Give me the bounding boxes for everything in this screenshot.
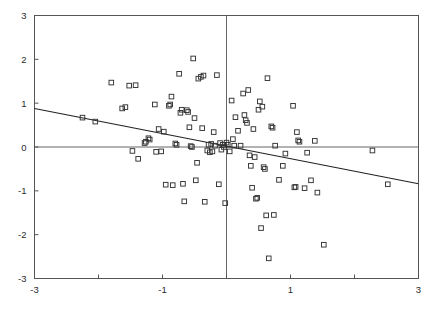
- data-point-marker: [133, 83, 138, 88]
- data-point-marker: [227, 149, 232, 154]
- x-tick-label: -3: [30, 284, 38, 295]
- data-point-marker: [265, 76, 270, 81]
- data-point-marker: [266, 256, 271, 261]
- y-tick-label: -2: [18, 229, 26, 240]
- data-point-marker: [385, 182, 390, 187]
- data-point-marker: [231, 137, 236, 142]
- data-point-marker: [296, 138, 301, 143]
- data-point-marker: [233, 115, 238, 120]
- x-tick-label: 1: [288, 284, 293, 295]
- data-point-marker: [246, 88, 251, 93]
- data-point-marker: [130, 149, 135, 154]
- data-point-marker: [277, 178, 282, 183]
- data-point-marker: [123, 105, 128, 110]
- data-point-marker: [217, 182, 222, 187]
- plot-canvas: -3-113 3210-1-2-3: [0, 0, 435, 310]
- x-tick-label: 3: [416, 284, 421, 295]
- data-point-marker: [252, 155, 257, 160]
- data-point-marker: [215, 73, 220, 78]
- data-point-marker: [283, 151, 288, 156]
- data-point-marker: [236, 128, 241, 133]
- scatter-plot-figure: -3-113 3210-1-2-3: [0, 0, 435, 310]
- data-point-marker: [305, 150, 310, 155]
- data-point-marker: [263, 167, 268, 172]
- data-point-marker: [281, 164, 286, 169]
- data-point-marker: [136, 157, 141, 162]
- data-point-marker: [315, 190, 320, 195]
- y-tick-label: -3: [18, 273, 26, 284]
- x-tick-label: -1: [158, 284, 166, 295]
- y-tick-label: 3: [21, 10, 26, 21]
- data-point-marker: [309, 178, 314, 183]
- data-point-marker: [295, 130, 300, 135]
- data-point-marker: [264, 213, 269, 218]
- data-point-marker: [153, 102, 158, 107]
- data-point-marker: [229, 98, 234, 103]
- data-point-marker: [109, 80, 114, 85]
- data-point-marker: [167, 104, 172, 109]
- data-point-marker: [170, 183, 175, 188]
- y-tick-label: 2: [21, 54, 26, 65]
- data-point-marker: [163, 182, 168, 187]
- data-point-marker: [313, 139, 318, 144]
- data-point-marker: [142, 141, 147, 146]
- data-point-marker: [182, 199, 187, 204]
- data-point-marker: [120, 106, 125, 111]
- data-point-marker: [195, 160, 200, 165]
- x-axis-tick-labels: -3-113: [30, 284, 421, 295]
- data-point-marker: [169, 94, 174, 99]
- data-point-marker: [191, 56, 196, 61]
- data-point-marker: [156, 127, 161, 132]
- data-point-marker: [321, 242, 326, 247]
- data-point-marker: [202, 199, 207, 204]
- data-point-marker: [242, 113, 247, 118]
- y-tick-label: 1: [21, 98, 26, 109]
- data-point-marker: [185, 108, 190, 113]
- y-axis-tick-labels: 3210-1-2-3: [18, 10, 26, 284]
- data-point-marker: [179, 107, 184, 112]
- data-point-marker: [272, 213, 277, 218]
- data-point-marker: [247, 153, 252, 158]
- data-point-marker: [261, 165, 266, 170]
- data-point-marker: [269, 124, 274, 129]
- data-point-marker: [302, 186, 307, 191]
- data-point-marker: [249, 164, 254, 169]
- data-point-marker: [193, 178, 198, 183]
- data-point-marker: [257, 99, 262, 104]
- data-point-markers: [80, 56, 390, 260]
- data-point-marker: [192, 116, 197, 121]
- data-point-marker: [250, 185, 255, 190]
- data-point-marker: [200, 126, 205, 131]
- data-point-marker: [270, 125, 275, 130]
- data-point-marker: [251, 127, 256, 132]
- data-point-marker: [181, 182, 186, 187]
- data-point-marker: [211, 130, 216, 135]
- data-point-marker: [241, 91, 246, 96]
- data-point-marker: [173, 141, 178, 146]
- data-point-marker: [168, 102, 173, 107]
- data-point-marker: [259, 226, 264, 231]
- data-point-marker: [370, 148, 375, 153]
- data-point-marker: [187, 125, 192, 130]
- data-point-marker: [186, 110, 191, 115]
- y-tick-label: -1: [18, 185, 26, 196]
- data-point-marker: [159, 149, 164, 154]
- data-point-marker: [178, 111, 183, 116]
- data-point-marker: [297, 139, 302, 144]
- data-point-marker: [127, 83, 132, 88]
- data-point-marker: [177, 72, 182, 77]
- y-tick-label: 0: [21, 142, 26, 153]
- data-point-marker: [174, 143, 179, 148]
- data-point-marker: [154, 150, 159, 155]
- data-point-marker: [291, 104, 296, 109]
